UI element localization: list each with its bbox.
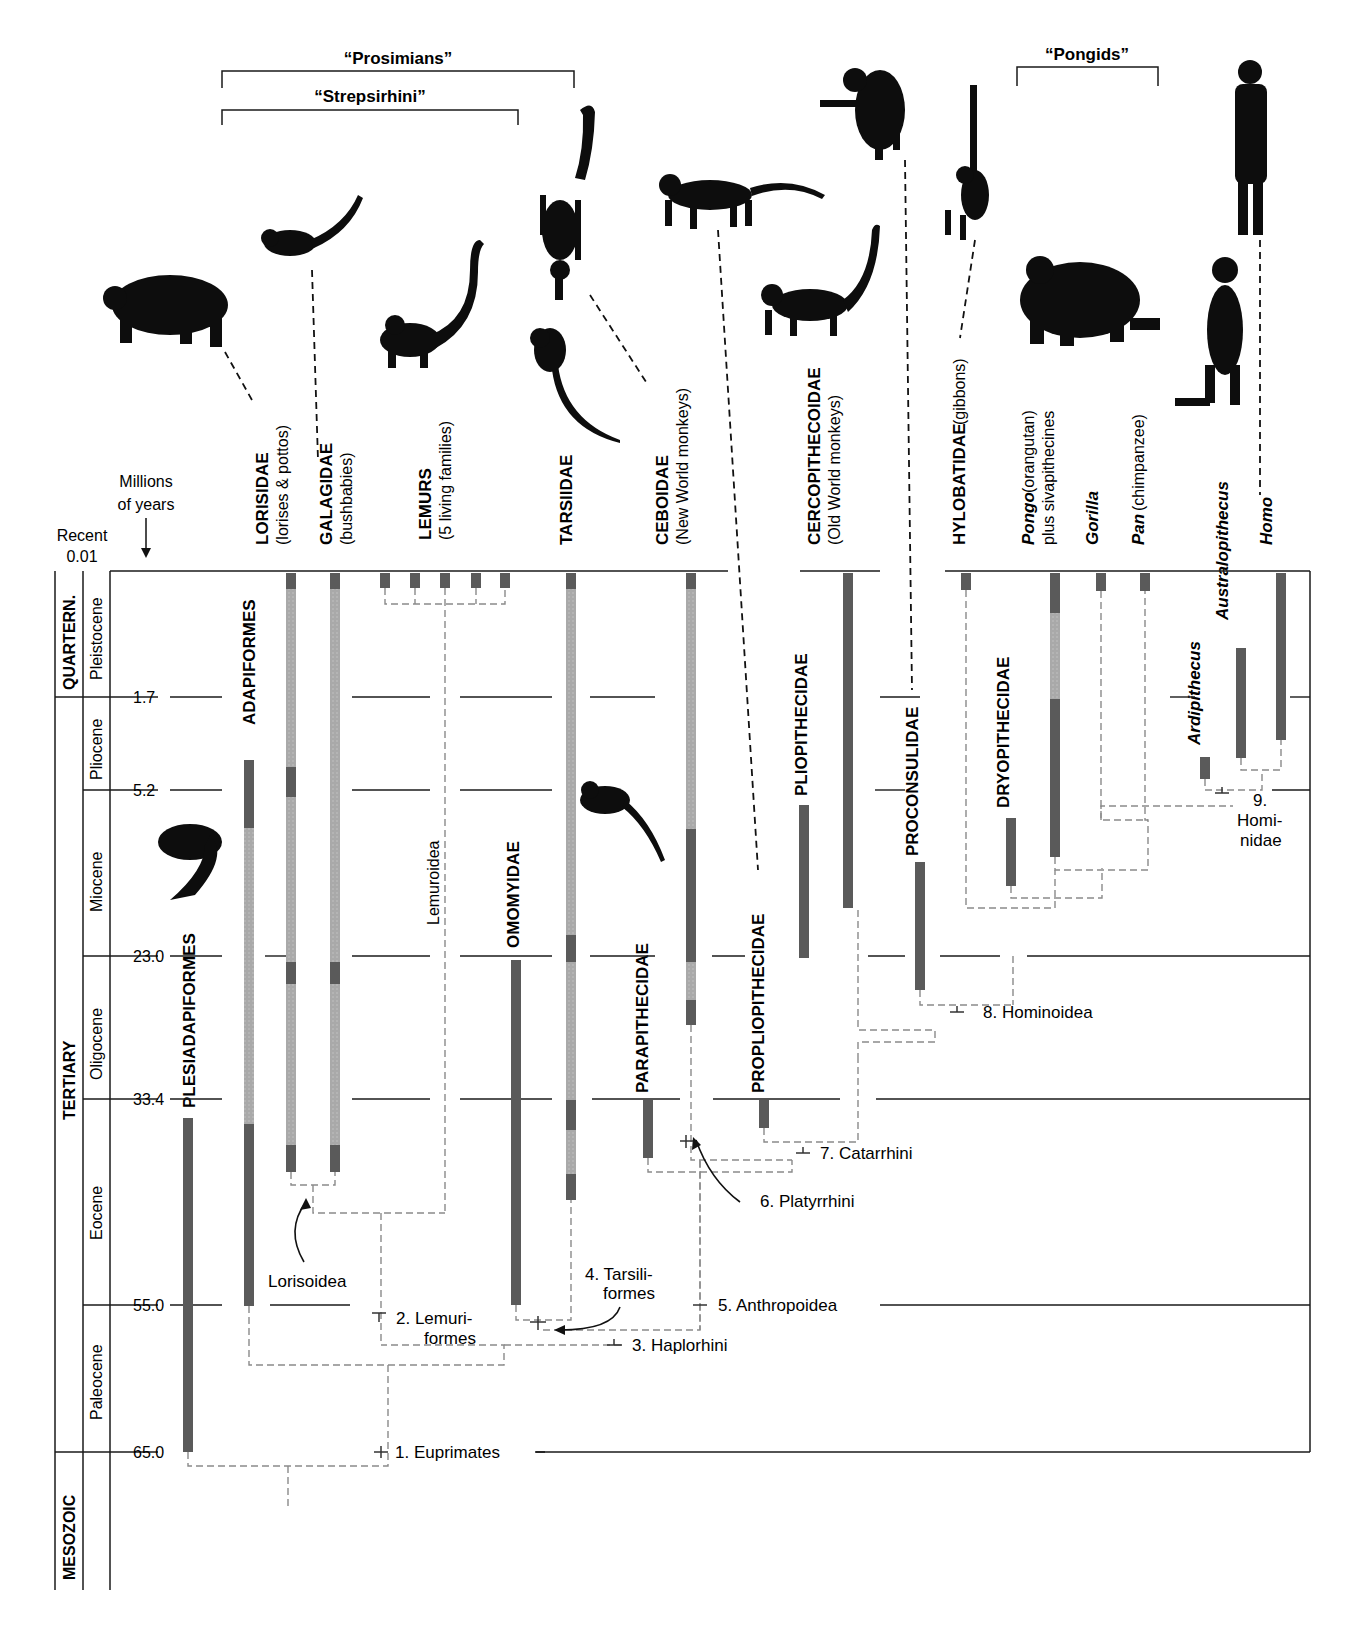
label-cercopithecoidae: CERCOPITHECOIDAE xyxy=(805,367,824,545)
time-guide-lines xyxy=(170,697,1310,1452)
prosimians-label: “Prosimians” xyxy=(344,49,453,68)
node-euprimates: 1. Euprimates xyxy=(395,1443,500,1462)
node-hominidae-3: nidae xyxy=(1240,831,1282,850)
epoch-pliocene: Pliocene xyxy=(88,719,105,780)
clade-labels: 1. Euprimates 2. Lemuri- formes 3. Haplo… xyxy=(268,791,1282,1462)
loris-silhouette-icon xyxy=(103,275,228,347)
label-cercopithecoidae-common: (Old World monkeys) xyxy=(826,395,843,545)
axis-label-line2: of years xyxy=(118,496,175,513)
tarsiliformes-arrowhead-icon xyxy=(554,1325,565,1335)
tarsier-silhouette-icon xyxy=(530,328,620,443)
label-ceboidae-common: (New World monkeys) xyxy=(674,388,691,545)
era-mesozoic: MESOZOIC xyxy=(61,1494,78,1580)
label-adapiformes: ADAPIFORMES xyxy=(240,599,259,725)
node-tarsiliformes-1: 4. Tarsili- xyxy=(585,1265,653,1284)
node-anthropoidea: 5. Anthropoidea xyxy=(718,1296,838,1315)
climbing-ape-silhouette-icon xyxy=(820,68,905,160)
spider-monkey-silhouette-icon xyxy=(540,105,595,300)
monkey-silhouette-icon xyxy=(659,174,825,229)
node-hominidae-2: Homi- xyxy=(1237,811,1282,830)
pongids-label: “Pongids” xyxy=(1045,45,1129,64)
node-tarsiliformes-2: formes xyxy=(603,1284,655,1303)
label-pliopithecidae: PLIOPITHECIDAE xyxy=(792,653,811,796)
australopithecus-silhouette-icon xyxy=(1175,257,1243,406)
tick-65-0: 65.0 xyxy=(133,1444,164,1461)
label-homo: Homo xyxy=(1257,497,1276,545)
label-pan: Pan xyxy=(1129,514,1148,545)
label-hylobatidae-common: (gibbons) xyxy=(951,358,968,425)
label-pongo: Pongo xyxy=(1019,492,1038,545)
phylogeny-diagram: “Prosimians” “Strepsirhini” “Pongids” LO… xyxy=(0,0,1353,1633)
tick-1-7: 1.7 xyxy=(133,689,155,706)
label-dryopithecidae: DRYOPITHECIDAE xyxy=(994,657,1013,808)
epoch-miocene: Miocene xyxy=(88,851,105,912)
bar-plesiadapiformes xyxy=(183,1118,193,1452)
label-tarsiidae: TARSIIDAE xyxy=(557,455,576,545)
label-pan-common: (chimpanzee) xyxy=(1130,414,1147,511)
label-omomyidae: OMOMYIDAE xyxy=(504,841,523,948)
label-lemurs: LEMURS xyxy=(416,468,435,540)
label-lorisidae-common: (lorises & pottos) xyxy=(274,425,291,545)
label-lorisidae: LORISIDAE xyxy=(253,452,272,545)
cladogram-connectors xyxy=(188,588,1281,1510)
node-hominoidea: 8. Hominoidea xyxy=(983,1003,1093,1022)
node-lemuriformes-2: formes xyxy=(424,1329,476,1348)
tarsiliformes-arrow-icon xyxy=(560,1307,620,1330)
galago-silhouette-icon xyxy=(261,195,363,256)
era-tertiary: TERTIARY xyxy=(61,1040,78,1120)
node-hominidae-1: 9. xyxy=(1253,791,1267,810)
tick-55-0: 55.0 xyxy=(133,1297,164,1314)
node-lemuriformes-1: 2. Lemuri- xyxy=(396,1309,473,1328)
epoch-paleocene: Paleocene xyxy=(88,1344,105,1420)
label-propliopithecidae: PROPLIOPITHECIDAE xyxy=(749,914,768,1093)
lorisoidea-arrow-icon xyxy=(295,1202,306,1262)
label-ceboidae: CEBOIDAE xyxy=(653,455,672,545)
gorilla-silhouette-icon xyxy=(1020,256,1160,346)
era-quaternary: QUARTERN. xyxy=(61,595,78,690)
gibbon-silhouette-icon xyxy=(945,85,989,240)
strepsirhini-label: “Strepsirhini” xyxy=(314,87,425,106)
label-lemurs-common: (5 living families) xyxy=(437,421,454,540)
lemur-silhouette-icon xyxy=(380,240,484,368)
axis-arrowhead-icon xyxy=(141,548,151,558)
label-plesiadapiformes: PLESIADAPIFORMES xyxy=(180,933,199,1108)
recent-value: 0.01 xyxy=(66,548,97,565)
platyrrhini-arrow-icon xyxy=(696,1140,740,1202)
label-lemuroidea: Lemuroidea xyxy=(425,840,442,925)
fossil-range-bars xyxy=(183,573,1286,1452)
label-proconsulidae: PROCONSULIDAE xyxy=(903,707,922,856)
epoch-pleistocene: Pleistocene xyxy=(88,597,105,680)
label-ardipithecus: Ardipithecus xyxy=(1185,641,1204,746)
label-galagidae: GALAGIDAE xyxy=(317,443,336,545)
label-parapithecidae: PARAPITHECIDAE xyxy=(633,943,652,1093)
label-australopithecus: Australopithecus xyxy=(1213,481,1232,621)
epoch-oligocene: Oligocene xyxy=(88,1008,105,1080)
tick-23-0: 23.0 xyxy=(133,948,164,965)
tick-5-2: 5.2 xyxy=(133,782,155,799)
label-gorilla: Gorilla xyxy=(1083,491,1102,545)
node-catarrhini: 7. Catarrhini xyxy=(820,1144,913,1163)
label-hylobatidae: HYLOBATIDAE xyxy=(950,423,969,545)
node-lorisoidea: Lorisoidea xyxy=(268,1272,347,1291)
baboon-silhouette-icon xyxy=(761,225,880,336)
axis-label-line1: Millions xyxy=(119,473,172,490)
node-haplorhini: 3. Haplorhini xyxy=(632,1336,727,1355)
lorisoidea-arrowhead-icon xyxy=(300,1198,311,1210)
label-galagidae-common: (bushbabies) xyxy=(338,453,355,546)
label-pongo-common: (orangutan) xyxy=(1020,410,1037,493)
recent-label: Recent xyxy=(57,527,108,544)
taxon-labels: LORISIDAE(lorises & pottos) GALAGIDAE(bu… xyxy=(180,358,1276,1108)
tick-33-4: 33.4 xyxy=(133,1091,164,1108)
human-silhouette-icon xyxy=(1235,60,1267,235)
label-pongo-extra: plus sivapithecines xyxy=(1040,411,1057,545)
epoch-eocene: Eocene xyxy=(88,1186,105,1240)
adapiform-silhouette-icon xyxy=(158,824,222,900)
small-monkey-silhouette-icon xyxy=(580,781,665,862)
node-platyrrhini: 6. Platyrrhini xyxy=(760,1192,854,1211)
